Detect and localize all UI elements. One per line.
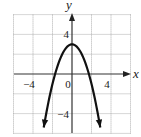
parabola-graph: x y −4044−4 bbox=[0, 0, 141, 137]
y-tick-label: 4 bbox=[64, 28, 70, 40]
axes bbox=[14, 13, 131, 133]
x-tick-label: −4 bbox=[23, 78, 35, 90]
x-tick-label: 0 bbox=[65, 78, 71, 90]
x-axis-arrow-icon bbox=[123, 71, 131, 77]
y-tick-label: −4 bbox=[57, 108, 69, 120]
y-axis-label: y bbox=[64, 0, 72, 12]
x-axis-label: x bbox=[132, 66, 139, 81]
x-tick-label: 4 bbox=[104, 78, 110, 90]
